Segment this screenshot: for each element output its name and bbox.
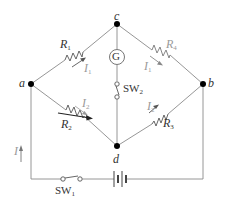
switch-sw2-label: SW2 (123, 83, 143, 96)
battery-icon (114, 171, 126, 187)
node-b-label: b (208, 77, 214, 89)
node-d-label: d (113, 153, 119, 165)
sw1-lever (65, 176, 78, 178)
current-arrow-i-icon (19, 145, 23, 162)
current-i2-right-label: I2 (147, 100, 155, 114)
current-i1-left-label: I1 (84, 62, 92, 76)
node-d (114, 143, 120, 149)
current-i-label: I (14, 145, 18, 157)
node-b (200, 81, 206, 87)
resistor-r4-label: R4 (166, 38, 177, 52)
current-i2-left-label: I2 (82, 97, 90, 111)
resistor-r3-label: R3 (163, 117, 174, 131)
switch-sw1-label: SW1 (55, 185, 75, 198)
resistor-r1-zigzag (65, 51, 83, 61)
galvanometer-label: G (112, 51, 120, 62)
circuit-drawing (0, 0, 227, 207)
node-c-label: c (114, 10, 119, 22)
branch-a-c (31, 24, 117, 84)
branch-c-b (117, 24, 203, 84)
node-a (28, 81, 34, 87)
current-i1-right-label: I1 (144, 60, 152, 74)
resistor-r1-label: R1 (60, 38, 71, 52)
resistor-r2-label: R2 (61, 118, 72, 132)
node-a-label: a (19, 77, 25, 89)
wheatstone-bridge-diagram: a b c d G R1 R4 R2 R3 SW2 SW1 I I1 I1 I2… (0, 0, 227, 207)
current-arrow-i1-right-icon (150, 56, 163, 66)
sw2-lever (116, 86, 119, 95)
